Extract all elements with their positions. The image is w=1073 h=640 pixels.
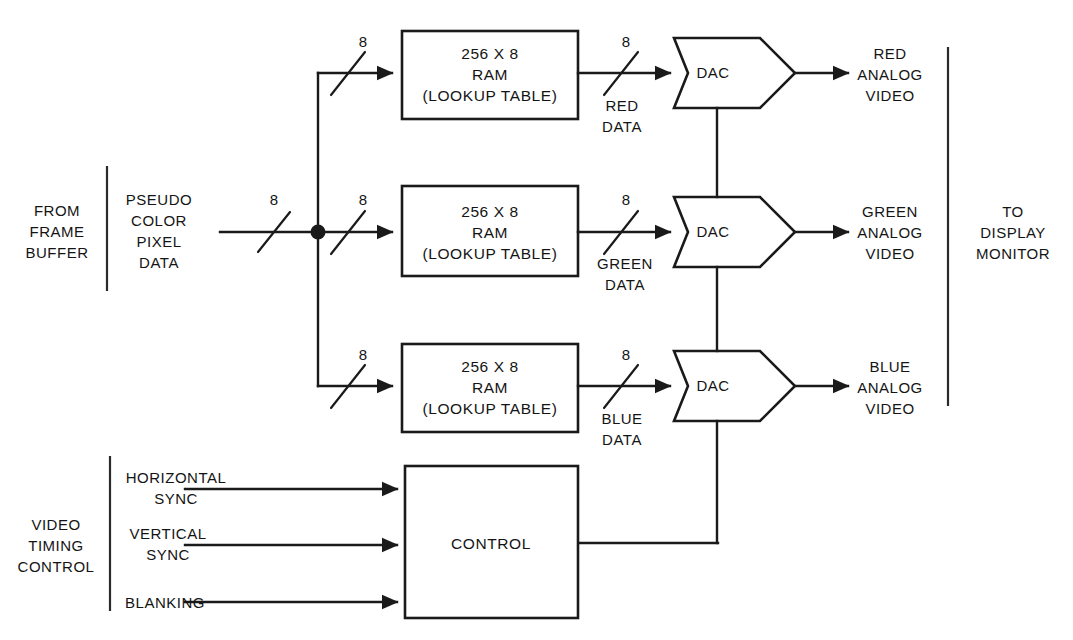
red-data-label: RED DATA <box>602 95 642 137</box>
red-lookup-ram-label: 256 X 8 RAM (LOOKUP TABLE) <box>422 43 557 106</box>
green-lookup-ram-label: 256 X 8 RAM (LOOKUP TABLE) <box>422 201 557 264</box>
block-diagram-canvas: FROM FRAME BUFFER PSEUDO COLOR PIXEL DAT… <box>0 0 1073 640</box>
blue-input-bus-width-label: 8 <box>359 345 368 365</box>
green-input-bus-width-label: 8 <box>359 190 368 210</box>
red-dac-label: DAC <box>696 63 729 83</box>
video-timing-control-label: VIDEO TIMING CONTROL <box>18 514 95 577</box>
green-dac-label: DAC <box>696 222 729 242</box>
blanking-label: BLANKING <box>125 592 205 613</box>
blue-lookup-ram-label: 256 X 8 RAM (LOOKUP TABLE) <box>422 356 557 419</box>
blue-dac-shape <box>674 351 795 421</box>
blue-dac-label: DAC <box>696 376 729 396</box>
vertical-sync-label: VERTICAL SYNC <box>129 523 206 565</box>
red-output-bus-width-label: 8 <box>622 32 631 52</box>
red-dac-shape <box>674 38 795 108</box>
pixel-data-bus-width-label: 8 <box>270 190 279 210</box>
horizontal-sync-label: HORIZONTAL SYNC <box>126 467 227 509</box>
to-display-monitor-label: TO DISPLAY MONITOR <box>976 201 1050 264</box>
from-frame-buffer-label: FROM FRAME BUFFER <box>26 200 89 263</box>
pseudo-color-pixel-data-label: PSEUDO COLOR PIXEL DATA <box>126 189 192 273</box>
green-data-label: GREEN DATA <box>597 253 653 295</box>
blue-analog-video-label: BLUE ANALOG VIDEO <box>857 356 923 419</box>
green-analog-video-label: GREEN ANALOG VIDEO <box>857 201 923 264</box>
red-analog-video-label: RED ANALOG VIDEO <box>857 43 923 106</box>
control-box-label: CONTROL <box>451 533 531 554</box>
blue-output-bus-width-label: 8 <box>622 345 631 365</box>
red-input-bus-width-label: 8 <box>359 32 368 52</box>
green-output-bus-width-label: 8 <box>622 190 631 210</box>
blue-data-label: BLUE DATA <box>601 408 642 450</box>
green-dac-shape <box>674 197 795 267</box>
